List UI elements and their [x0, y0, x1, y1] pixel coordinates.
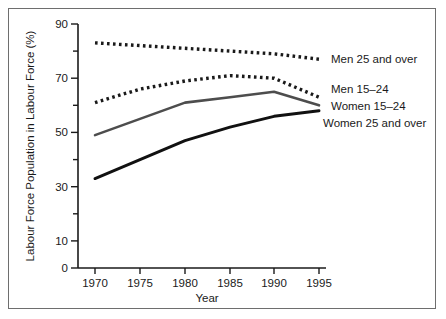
x-tick-label-1990: 1990	[261, 277, 287, 289]
x-tick-label-1975: 1975	[127, 277, 153, 289]
y-axis-ticks	[71, 24, 78, 268]
series-label-men-25-and-over: Men 25 and over	[331, 53, 417, 65]
x-tick-label-1995: 1995	[306, 277, 332, 289]
series-men-25-and-over	[95, 43, 319, 59]
y-tick-label-30: 30	[55, 181, 68, 193]
x-axis-title: Year	[195, 292, 218, 304]
y-tick-labels: 90 70 50 30 10 0	[55, 18, 68, 274]
chart-figure: 90 70 50 30 10 0 1970 1975 1980 1985 199…	[0, 0, 446, 319]
x-tick-label-1980: 1980	[172, 277, 198, 289]
y-tick-label-0: 0	[62, 262, 68, 274]
series-women-25-and-over	[95, 111, 319, 179]
y-tick-label-10: 10	[55, 235, 68, 247]
x-axis-ticks	[95, 268, 319, 274]
series-label-men-15-24: Men 15–24	[331, 83, 389, 95]
x-tick-label-1970: 1970	[82, 277, 108, 289]
y-tick-label-90: 90	[55, 18, 68, 30]
y-tick-label-50: 50	[55, 126, 68, 138]
series-label-women-25-and-over: Women 25 and over	[323, 117, 427, 129]
x-tick-label-1985: 1985	[217, 277, 243, 289]
y-tick-label-70: 70	[55, 72, 68, 84]
x-tick-labels: 1970 1975 1980 1985 1990 1995	[82, 277, 332, 289]
series-label-women-15-24: Women 15–24	[331, 100, 406, 112]
series-men-15-24	[95, 76, 319, 103]
y-axis-title: Labour Force Population in Labour Force …	[24, 30, 36, 261]
line-chart: 90 70 50 30 10 0 1970 1975 1980 1985 199…	[0, 0, 446, 319]
